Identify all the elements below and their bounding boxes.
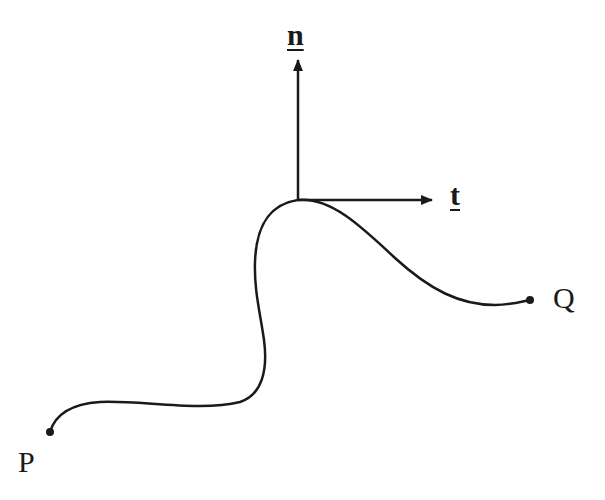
point-q-label: Q: [553, 283, 575, 313]
point-p-label: P: [18, 447, 35, 477]
diagram-canvas: [0, 0, 605, 500]
tangent-vector-label: t: [450, 180, 460, 210]
cut-off-caption: [0, 488, 605, 500]
curve-path: [50, 200, 530, 432]
point-q-dot: [526, 296, 534, 304]
point-p-dot: [46, 428, 54, 436]
normal-vector-label: n: [287, 20, 304, 50]
